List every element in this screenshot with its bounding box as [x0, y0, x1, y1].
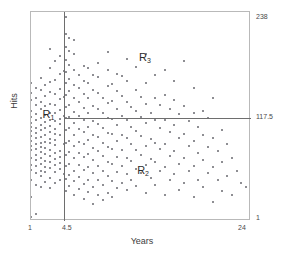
- data-point: [40, 186, 42, 188]
- data-point: [87, 191, 89, 193]
- data-point: [68, 174, 70, 176]
- data-point: [31, 164, 32, 166]
- data-point: [65, 71, 67, 73]
- data-point: [107, 175, 109, 177]
- data-point: [145, 103, 147, 105]
- data-point: [193, 165, 195, 167]
- data-point: [97, 108, 99, 110]
- y-axis-tick-min: 1: [256, 214, 260, 221]
- data-point: [59, 123, 61, 125]
- data-point: [35, 87, 37, 89]
- data-point: [231, 157, 233, 159]
- data-point: [68, 140, 70, 142]
- data-point: [49, 155, 51, 157]
- data-point: [126, 173, 128, 175]
- data-point: [54, 104, 56, 106]
- data-point: [40, 142, 42, 144]
- data-point: [73, 134, 75, 136]
- data-point: [173, 150, 175, 152]
- data-point: [188, 120, 190, 122]
- data-point: [193, 112, 195, 114]
- data-point: [97, 165, 99, 167]
- region-index: 2: [145, 170, 149, 177]
- data-point: [121, 134, 123, 136]
- data-point: [97, 136, 99, 138]
- data-point: [78, 188, 80, 190]
- data-point: [107, 85, 109, 87]
- data-point: [54, 133, 56, 135]
- data-point: [35, 159, 37, 161]
- data-point: [97, 92, 99, 94]
- data-point: [44, 166, 46, 168]
- x-axis-tick-max: 24: [238, 224, 246, 231]
- data-point: [107, 192, 109, 194]
- data-point: [116, 73, 118, 75]
- data-point: [44, 95, 46, 97]
- data-point: [173, 99, 175, 101]
- data-point: [135, 66, 137, 68]
- data-point: [116, 108, 118, 110]
- data-point: [207, 172, 209, 174]
- data-point: [65, 165, 67, 167]
- data-point: [83, 143, 85, 145]
- data-point: [236, 170, 238, 172]
- data-point: [68, 185, 70, 187]
- data-point: [221, 129, 223, 131]
- data-point: [73, 157, 75, 159]
- data-point: [54, 128, 56, 130]
- data-point: [202, 186, 204, 188]
- data-point: [59, 134, 61, 136]
- data-point: [78, 128, 80, 130]
- data-point: [183, 60, 185, 62]
- data-point: [65, 178, 67, 180]
- data-point: [159, 170, 161, 172]
- data-point: [240, 182, 242, 184]
- data-point: [73, 69, 75, 71]
- data-point: [31, 122, 32, 124]
- data-point: [35, 119, 37, 121]
- data-point: [35, 143, 37, 145]
- data-point: [116, 124, 118, 126]
- data-point: [121, 115, 123, 117]
- data-point: [102, 199, 104, 201]
- data-point: [107, 51, 109, 53]
- data-point: [73, 194, 75, 196]
- data-point: [217, 179, 219, 181]
- data-point: [212, 166, 214, 168]
- data-point: [126, 157, 128, 159]
- data-point: [102, 127, 104, 129]
- data-point: [83, 131, 85, 133]
- data-point: [193, 87, 195, 89]
- data-point: [164, 166, 166, 168]
- data-point: [59, 109, 61, 111]
- data-point: [121, 149, 123, 151]
- data-point: [59, 55, 61, 57]
- data-point: [169, 131, 171, 133]
- data-point: [116, 140, 118, 142]
- data-point: [102, 142, 104, 144]
- data-point: [197, 179, 199, 181]
- data-point: [164, 143, 166, 145]
- data-point: [31, 157, 32, 159]
- data-point: [35, 148, 37, 150]
- data-point: [73, 97, 75, 99]
- data-point: [49, 91, 51, 93]
- data-point: [92, 159, 94, 161]
- data-point: [65, 106, 67, 108]
- data-point: [197, 152, 199, 154]
- data-point: [54, 60, 56, 62]
- data-point: [78, 164, 80, 166]
- data-point: [212, 201, 214, 203]
- data-point: [92, 105, 94, 107]
- data-point: [87, 179, 89, 181]
- data-point: [78, 115, 80, 117]
- data-point: [49, 187, 51, 189]
- data-point: [169, 155, 171, 157]
- data-point: [135, 149, 137, 151]
- data-point: [130, 179, 132, 181]
- data-point: [212, 137, 214, 139]
- data-point: [183, 182, 185, 184]
- data-point: [65, 16, 67, 18]
- data-point: [68, 50, 70, 52]
- data-point: [116, 156, 118, 158]
